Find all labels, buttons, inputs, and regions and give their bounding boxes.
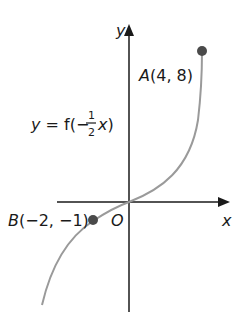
graph-figure: y x O A(4, 8) B(−2, −1) y = f(− 1 2 x) <box>0 0 239 312</box>
function-label: y = f(− 1 2 x) <box>30 109 114 139</box>
origin-label: O <box>111 211 124 230</box>
x-axis-arrow-icon <box>218 197 230 207</box>
point-b-marker <box>88 215 98 225</box>
svg-text:y = f(−: y = f(− <box>30 115 89 134</box>
x-axis-label: x <box>221 211 232 230</box>
function-curve <box>42 51 202 305</box>
svg-text:x): x) <box>97 115 114 134</box>
point-a-label: A(4, 8) <box>138 66 193 85</box>
fraction-numerator: 1 <box>88 109 95 122</box>
y-axis-label: y <box>115 21 126 40</box>
point-a-marker <box>197 46 207 56</box>
point-b-label: B(−2, −1) <box>8 211 89 230</box>
fraction-denominator: 2 <box>88 126 95 139</box>
y-axis-arrow-icon <box>124 24 134 36</box>
